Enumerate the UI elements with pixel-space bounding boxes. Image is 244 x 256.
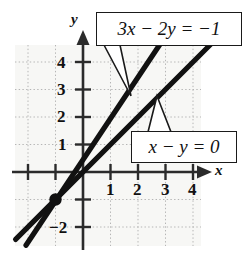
callout-line-2[interactable]: x − y = 0 [131, 131, 237, 163]
y-tick-label-minus-2: −2 [49, 219, 67, 236]
callout-line-1-text: 3x − 2y = −1 [118, 18, 221, 40]
x-axis-arrow-icon [197, 166, 212, 179]
intersection-point [49, 193, 61, 205]
graph-figure: 4 3 2 1 −2 1 2 3 4 y x 3x − 2y = −1 x − … [0, 0, 244, 256]
y-axis-label: y [71, 12, 78, 27]
y-tick-label-3: 3 [57, 81, 66, 98]
x-tick-label-3: 3 [161, 181, 170, 198]
y-tick-label-4: 4 [57, 54, 66, 71]
x-tick-label-2: 2 [133, 181, 142, 198]
y-axis-arrow-icon [77, 30, 90, 45]
x-axis-label: x [215, 163, 223, 178]
x-tick-label-4: 4 [188, 181, 197, 198]
callout-line-2-text: x − y = 0 [148, 136, 219, 158]
y-tick-label-1: 1 [58, 136, 67, 153]
callout-line-1[interactable]: 3x − 2y = −1 [96, 12, 242, 46]
y-tick-label-2: 2 [57, 108, 66, 125]
x-tick-label-1: 1 [106, 181, 115, 198]
